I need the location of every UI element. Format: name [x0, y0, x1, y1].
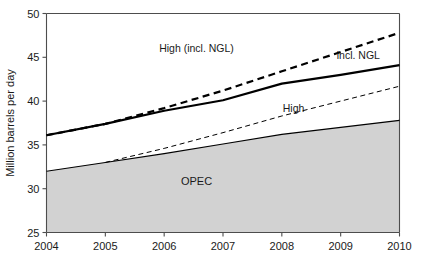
y-tick-label: 25	[27, 227, 39, 239]
chart-figure: 253035404550 200420052006200720082009201…	[0, 0, 421, 269]
x-tick-label: 2006	[152, 240, 176, 252]
series-annotation-opec: OPEC	[181, 175, 212, 187]
y-axis-title: Million barrels per day	[4, 69, 16, 177]
x-tick-label: 2010	[387, 240, 411, 252]
y-tick-label: 45	[27, 51, 39, 63]
x-tick-label: 2008	[270, 240, 294, 252]
series-annotation-high: High	[283, 102, 305, 114]
chart-canvas: 253035404550 200420052006200720082009201…	[0, 0, 421, 269]
x-tick-label: 2009	[328, 240, 352, 252]
x-tick-label: 2007	[211, 240, 235, 252]
y-tick-label: 30	[27, 183, 39, 195]
y-tick-label: 50	[27, 8, 39, 20]
series-annotation-incl-ngl: incl. NGL	[337, 49, 380, 61]
series-annotation-high-incl-ngl: High (incl. NGL)	[159, 42, 234, 54]
y-tick-label: 40	[27, 95, 39, 107]
x-tick-label: 2005	[93, 240, 117, 252]
y-tick-label: 35	[27, 139, 39, 151]
x-tick-label: 2004	[34, 240, 58, 252]
